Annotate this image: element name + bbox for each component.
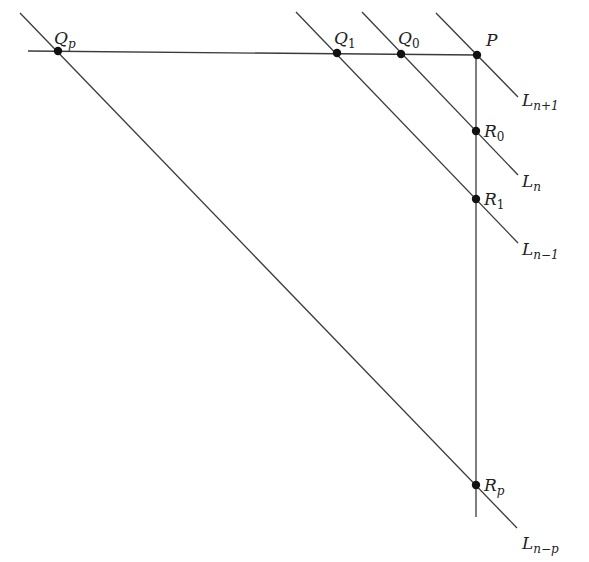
label-l-n-1: Ln+1: [521, 90, 559, 113]
point-r0: [472, 127, 480, 135]
diagram-labels: QpQ1Q0PR0R1RpLn+1LnLn−1Ln−p: [54, 28, 559, 556]
label-r1: R1: [483, 189, 504, 212]
point-r1: [472, 195, 480, 203]
label-l-n-1: Ln−1: [521, 239, 559, 262]
label-l-n: Ln: [521, 171, 541, 194]
point-q0: [397, 50, 405, 58]
line-horizontal: [28, 51, 477, 55]
diagram-lines: [20, 12, 518, 528]
label-p: P: [485, 30, 498, 50]
label-qp: Qp: [54, 28, 76, 51]
point-q1: [333, 49, 341, 57]
label-r0: R0: [483, 121, 504, 144]
geometry-diagram: QpQ1Q0PR0R1RpLn+1LnLn−1Ln−p: [0, 0, 589, 562]
label-q1: Q1: [334, 28, 356, 51]
line-l-n-p: [20, 13, 517, 528]
point-p: [473, 51, 481, 59]
label-rp: Rp: [483, 475, 505, 498]
diagram-points: [54, 47, 481, 489]
label-q0: Q0: [398, 28, 420, 51]
label-l-n-p: Ln−p: [521, 533, 559, 556]
point-rp: [472, 481, 480, 489]
point-qp: [54, 47, 62, 55]
